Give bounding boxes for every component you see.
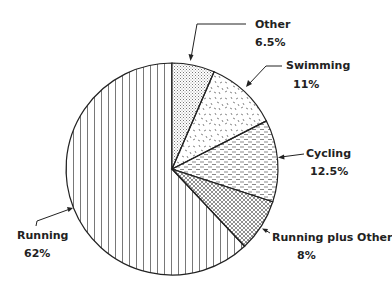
leader-running (36, 209, 70, 226)
label-running-plus-other-value: 8% (297, 250, 316, 261)
label-swimming-name: Swimming (286, 60, 350, 71)
label-other-name: Other (255, 19, 290, 30)
leader-swimming (249, 66, 282, 84)
arrow-head-cycling (278, 155, 285, 160)
label-cycling-name: Cycling (306, 148, 351, 159)
leader-other (191, 24, 246, 58)
label-swimming-value: 11% (293, 79, 319, 90)
arrow-head-other (189, 54, 194, 61)
label-other-value: 6.5% (255, 37, 286, 48)
label-running-name: Running (17, 230, 68, 241)
label-cycling-value: 12.5% (310, 166, 348, 177)
leader-cycling (281, 154, 304, 157)
label-running-value: 62% (24, 248, 50, 259)
arrow-head-running (67, 207, 73, 212)
label-running-plus-other-name: Running plus Other (272, 232, 392, 243)
arrow-head-running-plus-other (262, 229, 268, 234)
